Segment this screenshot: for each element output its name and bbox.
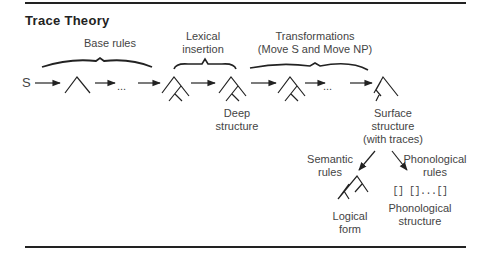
tree-lexical [162,77,189,101]
tree-transformed [278,77,305,101]
transformations-brace [250,63,368,70]
tree-deep-structure [219,77,246,101]
tree-1 [65,77,90,93]
tree-surface-structure [374,77,398,101]
base-rules-brace [42,58,152,67]
lexical-brace [174,59,236,69]
tree-logical-form [338,176,368,199]
diagram-graphics [0,0,491,253]
